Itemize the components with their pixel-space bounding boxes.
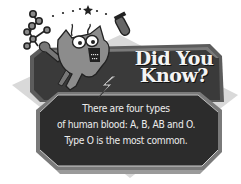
fact-line: of human blood: A, B, AB and O. bbox=[38, 117, 214, 133]
fact-line: There are four types bbox=[38, 101, 214, 117]
did-you-know-graphic bbox=[0, 0, 241, 184]
test-tube-icon bbox=[114, 11, 131, 36]
sparkle-trail bbox=[52, 8, 107, 17]
heading-line-2: Know? bbox=[134, 67, 214, 84]
fact-text: There are four types of human blood: A, … bbox=[38, 101, 214, 149]
star-icon bbox=[83, 5, 93, 15]
did-you-know-heading: Did You Know? bbox=[134, 50, 214, 84]
fact-line: Type O is the most common. bbox=[38, 133, 214, 149]
